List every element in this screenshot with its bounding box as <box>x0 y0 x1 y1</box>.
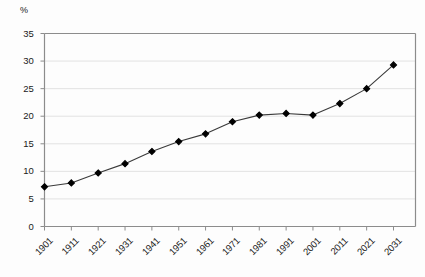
axis-lines <box>45 34 416 227</box>
data-point-marker <box>229 119 235 125</box>
data-point-marker <box>68 180 74 186</box>
data-point-marker <box>310 112 316 118</box>
data-point-marker <box>149 149 155 155</box>
chart-container: % 05101520253035 19011911192119311941195… <box>0 0 425 277</box>
series-line <box>45 65 394 187</box>
data-point-marker <box>203 131 209 137</box>
data-point-marker <box>283 110 289 116</box>
plot-area <box>0 0 425 277</box>
data-point-marker <box>337 101 343 107</box>
data-point-marker <box>256 112 262 118</box>
data-point-marker <box>42 184 48 190</box>
series-markers <box>42 62 397 190</box>
x-axis-ticks <box>45 227 394 231</box>
data-point-marker <box>122 161 128 167</box>
